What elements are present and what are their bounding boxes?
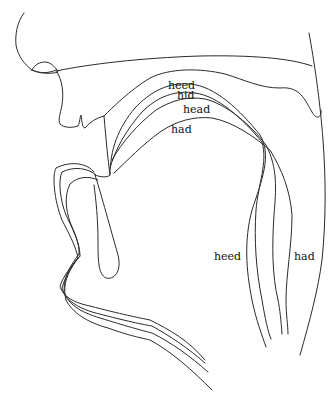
vocal-tract-diagram: heed hid head had heed had: [0, 0, 334, 404]
hard-palate: [104, 70, 321, 117]
pharyngeal-wall: [300, 33, 325, 355]
jaw-contour-3: [64, 254, 208, 372]
label-had-lower: had: [294, 250, 315, 263]
jaw-contour-4: [65, 258, 212, 390]
label-head-upper: head: [183, 103, 210, 116]
label-had-upper: had: [171, 123, 192, 136]
velum-tip: [95, 116, 110, 177]
jaw-contour-1: [60, 258, 205, 360]
nasal-floor-line: [56, 56, 312, 71]
label-hid-upper: hid: [177, 89, 195, 102]
upper-lip: [57, 72, 104, 128]
lower-lip-loop-3: [66, 177, 98, 254]
jaw-contour-2: [62, 256, 205, 363]
tongue-head: [112, 98, 282, 334]
nostril-outline: [32, 62, 58, 73]
lower-lip-outer: [94, 175, 119, 278]
label-heed-lower: heed: [214, 250, 241, 263]
